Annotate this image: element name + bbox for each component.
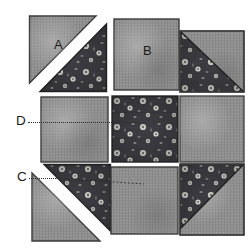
piece-bottom-right-unit[interactable]: [179, 163, 245, 236]
piece-top-left-unit-A[interactable]: A: [28, 14, 108, 94]
piece-top-center-unit-B[interactable]: B: [113, 18, 180, 91]
callout-label-C: C: [17, 170, 27, 184]
piece-middle-center-floral-square[interactable]: [111, 95, 179, 163]
quilt-block-diagram: A B: [0, 0, 248, 249]
leader-line-D: [28, 122, 138, 124]
leader-line-C-diagonal: [56, 168, 146, 192]
piece-label-B: B: [143, 44, 152, 57]
piece-top-right-unit[interactable]: [179, 30, 245, 93]
piece-middle-right-unit[interactable]: [179, 95, 245, 163]
leader-line-C: [29, 178, 58, 180]
piece-middle-left-unit-D[interactable]: [40, 96, 109, 163]
callout-label-D: D: [16, 114, 26, 128]
piece-label-A: A: [54, 38, 63, 51]
